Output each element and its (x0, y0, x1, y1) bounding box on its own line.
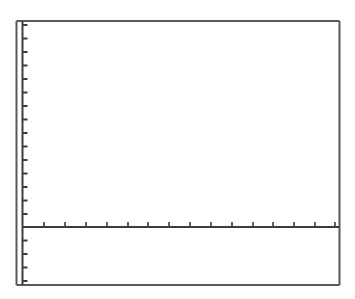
empty-plot (0, 0, 355, 299)
x-axis (23, 222, 340, 227)
plot-frame (17, 21, 340, 285)
y-axis (23, 21, 28, 285)
